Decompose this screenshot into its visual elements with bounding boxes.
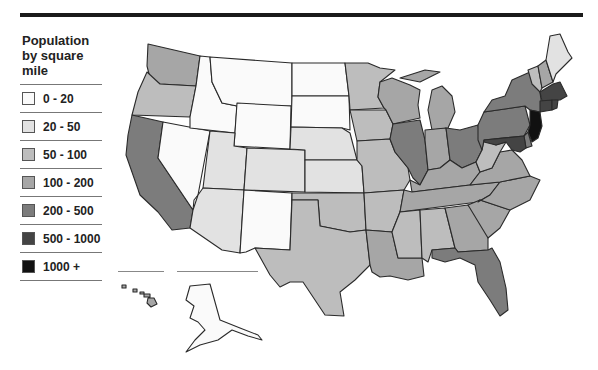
state-AZ xyxy=(190,188,244,253)
state-FL xyxy=(432,248,508,316)
state-ND xyxy=(292,63,349,96)
state-KS xyxy=(305,160,364,193)
state-MT xyxy=(210,57,292,106)
state-HI xyxy=(122,285,157,307)
state-CT xyxy=(540,100,552,112)
state-RI xyxy=(552,100,558,110)
state-IA xyxy=(350,110,393,141)
state-CO xyxy=(244,148,305,192)
us-population-density-map xyxy=(0,0,598,370)
state-NJ xyxy=(528,110,542,142)
state-SD xyxy=(291,96,350,130)
state-WY xyxy=(234,103,291,149)
state-NM xyxy=(240,190,292,253)
state-AK xyxy=(186,284,262,352)
